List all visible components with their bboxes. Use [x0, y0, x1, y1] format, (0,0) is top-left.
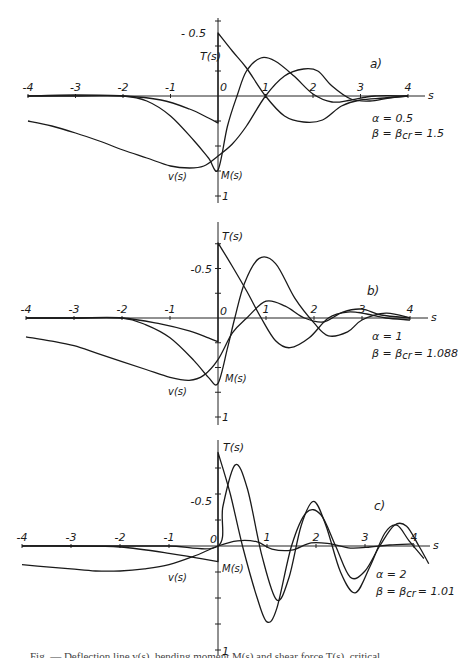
panel-b-beta: β = βcr= 1.088: [371, 347, 458, 361]
x-tick-label: -1: [165, 81, 176, 94]
panel-b-v-label: v(s): [168, 386, 187, 397]
panel-c-origin-label: 0: [210, 533, 217, 546]
x-tick-label: 1: [264, 531, 271, 544]
x-tick-label: -2: [117, 303, 128, 316]
panel-a-alpha: α = 0.5: [372, 112, 413, 125]
x-tick-label: -2: [118, 81, 129, 94]
panel-a-y-top-label: - 0.5: [181, 27, 206, 40]
figure-canvas: -4-3-2-11234 - 0.5 0 1 s T(s) M(s) v(s) …: [0, 0, 459, 658]
x-tick-label: -2: [115, 531, 126, 544]
panel-b-origin-label: 0: [220, 305, 227, 318]
panel-a-origin-label: 0: [220, 81, 227, 94]
panel-a-x-axis-label: s: [428, 89, 434, 102]
panel-b-y-top-label: -0.5: [191, 263, 212, 276]
x-tick-label: -3: [69, 303, 80, 316]
x-tick-label: -3: [66, 531, 77, 544]
curve-ts: [26, 243, 410, 348]
panel-c-T-label: T(s): [223, 441, 244, 454]
panel-a-beta: β = βcr= 1.5: [371, 127, 444, 141]
x-tick-label: -1: [165, 303, 176, 316]
curve-ts: [28, 33, 408, 123]
panel-c: -4-3-2-11234 -0.5 0 1 s T(s) M(s) v(s) c…: [17, 440, 456, 658]
panel-a-label: a): [370, 57, 382, 71]
x-tick-label: -1: [164, 531, 175, 544]
x-tick-label: 2: [311, 303, 318, 316]
x-tick-label: 1: [263, 303, 270, 316]
x-tick-label: 4: [405, 81, 412, 94]
panel-b-M-label: M(s): [225, 373, 247, 384]
panel-b-T-label: T(s): [222, 230, 243, 243]
panel-a: -4-3-2-11234 - 0.5 0 1 s T(s) M(s) v(s) …: [23, 18, 445, 203]
panel-b-y-bottom-label: 1: [222, 411, 229, 424]
panel-a-M-label: M(s): [221, 170, 243, 181]
x-tick-label: 3: [362, 531, 369, 544]
panel-b-alpha: α = 1: [372, 330, 402, 343]
panel-c-alpha: α = 2: [376, 568, 406, 581]
panel-c-x-axis-label: s: [433, 539, 439, 552]
panel-c-beta: β = βcr= 1.01: [375, 585, 455, 599]
panel-c-M-label: M(s): [222, 563, 244, 574]
x-tick-label: -4: [23, 81, 34, 94]
panel-a-v-label: v(s): [168, 171, 187, 182]
x-tick-label: 3: [357, 81, 364, 94]
panel-b-x-axis-label: s: [431, 311, 437, 324]
panel-c-v-label: v(s): [168, 572, 187, 583]
figure-caption-partial: Fig. — Deflection line v(s), bending mom…: [30, 649, 459, 658]
panel-a-T-label: T(s): [200, 50, 221, 63]
x-tick-label: 4: [407, 303, 414, 316]
panel-b-label: b): [367, 284, 379, 298]
x-tick-label: -4: [17, 531, 28, 544]
x-tick-label: -3: [70, 81, 81, 94]
panel-b: -4-3-2-11234 -0.5 0 1 s T(s) M(s) v(s) b…: [21, 222, 459, 425]
panel-c-y-top-label: -0.5: [191, 495, 212, 508]
panel-a-y-bottom-label: 1: [222, 190, 229, 203]
panel-c-label: c): [374, 499, 385, 513]
x-tick-label: -4: [21, 303, 32, 316]
